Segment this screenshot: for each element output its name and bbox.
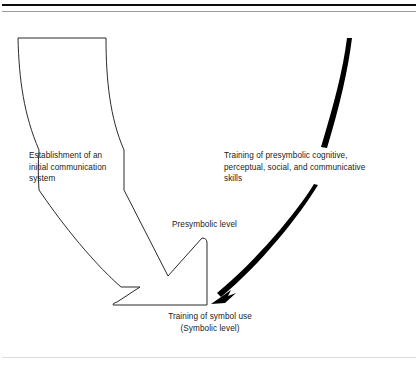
label-presymbolic-level: Presymbolic level xyxy=(172,219,292,231)
label-presymbolic-training: Training of presymbolic cognitive, perce… xyxy=(224,150,419,185)
label-establishment: Establishment of an initial communicatio… xyxy=(29,150,179,185)
figure-container: Establishment of an initial communicatio… xyxy=(0,0,419,365)
label-symbol-use: Training of symbol use (Symbolic level) xyxy=(112,311,308,334)
funnel-shape xyxy=(18,38,124,150)
